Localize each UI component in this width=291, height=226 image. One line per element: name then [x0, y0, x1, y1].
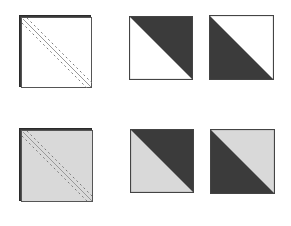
hst-unit-2-row-gray [210, 129, 275, 194]
stitched-square-row-white [19, 15, 94, 90]
hst-unit-2-row-white [209, 15, 274, 80]
hst-unit-1-row-white [129, 16, 193, 80]
stitched-square-row-gray [19, 128, 95, 204]
hst-unit-1-row-gray [130, 129, 194, 193]
